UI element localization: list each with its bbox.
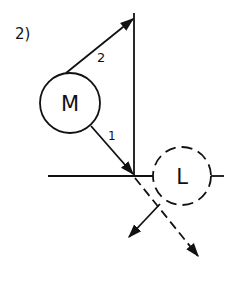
reflected-arrow — [129, 204, 160, 237]
node-m: M — [40, 73, 100, 133]
node-l-label: L — [176, 165, 188, 189]
node-m-label: M — [61, 92, 79, 116]
edge-path-1: 1 — [91, 126, 133, 174]
figure-label: 2) — [15, 25, 30, 43]
dashed-arrow — [135, 178, 198, 256]
edge-label-2: 2 — [97, 50, 105, 65]
node-l: L — [153, 147, 224, 205]
edge-path-2: 2 — [66, 19, 133, 73]
diagram-canvas: 2) M 2 1 L — [0, 0, 242, 294]
edge-label-1: 1 — [108, 129, 116, 143]
